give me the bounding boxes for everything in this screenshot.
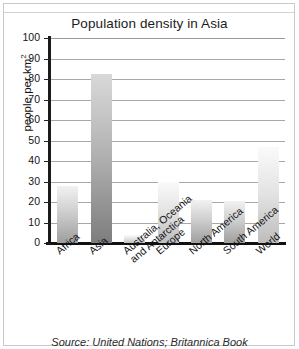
x-axis-labels: AfricaAsiaAustralia, Oceania and Antarct… — [0, 246, 299, 316]
chart-title: Population density in Asia — [0, 16, 299, 31]
gridline-70 — [51, 100, 285, 101]
y-tick-label-100: 100 — [14, 31, 40, 43]
y-tick-60 — [44, 120, 51, 121]
gridline-100 — [51, 38, 285, 39]
y-tick-label-10: 10 — [14, 216, 40, 228]
gridline-90 — [51, 59, 285, 60]
source-caption: Source: United Nations; Britannica Book — [0, 336, 299, 348]
y-tick-label-50: 50 — [14, 134, 40, 146]
y-tick-70 — [44, 100, 51, 101]
gridline-60 — [51, 120, 285, 121]
y-tick-label-60: 60 — [14, 113, 40, 125]
header-rule — [4, 12, 294, 13]
y-tick-label-70: 70 — [14, 93, 40, 105]
y-tick-label-90: 90 — [14, 52, 40, 64]
gridline-40 — [51, 161, 285, 162]
y-tick-80 — [44, 79, 51, 80]
y-tick-label-80: 80 — [14, 72, 40, 84]
y-tick-label-40: 40 — [14, 154, 40, 166]
y-tick-30 — [44, 182, 51, 183]
y-tick-50 — [44, 141, 51, 142]
y-tick-90 — [44, 59, 51, 60]
y-tick-20 — [44, 202, 51, 203]
gridline-50 — [51, 141, 285, 142]
y-tick-40 — [44, 161, 51, 162]
y-tick-label-20: 20 — [14, 195, 40, 207]
y-tick-100 — [44, 38, 51, 39]
y-tick-0 — [44, 243, 51, 244]
gridline-80 — [51, 79, 285, 80]
y-tick-10 — [44, 223, 51, 224]
y-tick-label-30: 30 — [14, 175, 40, 187]
bar-1 — [91, 74, 112, 243]
